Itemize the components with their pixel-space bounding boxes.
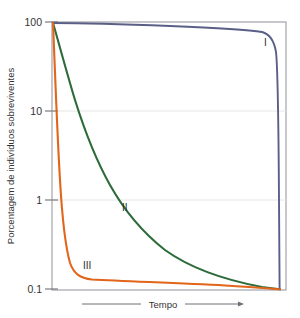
y-tick-label-1: 1 (36, 194, 42, 206)
chart-svg: 100 10 1 0.1 Porcentagem de indivíduos s… (0, 0, 300, 318)
curve-label-i: I (264, 37, 267, 48)
survivorship-curve-figure: 100 10 1 0.1 Porcentagem de indivíduos s… (0, 0, 300, 318)
plot-area-border (52, 22, 286, 290)
y-tick-label-10: 10 (30, 105, 42, 117)
y-axis-title: Porcentagem de indivíduos sobreviventes (5, 68, 16, 245)
x-axis-title: Tempo (149, 299, 178, 310)
y-tick-label-100: 100 (24, 16, 42, 28)
y-tick-label-0-1: 0.1 (27, 283, 42, 295)
curve-label-iii: III (83, 260, 91, 271)
curve-label-ii: II (122, 202, 128, 213)
